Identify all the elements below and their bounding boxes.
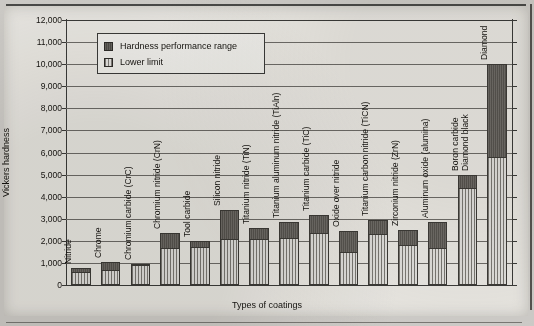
- page-top-rule: [6, 4, 526, 6]
- legend-swatch-dark-icon: [104, 42, 113, 51]
- bar[interactable]: [368, 220, 388, 285]
- bar-segment-divider: [102, 270, 120, 271]
- bar-segment-divider: [488, 157, 506, 158]
- y-tick-label-10000: 10,000: [36, 60, 62, 69]
- bar-segment-lower-limit: [161, 249, 179, 284]
- category-label: Boron carbide: [451, 117, 460, 171]
- y-tick-mark-right-0: [512, 285, 517, 286]
- bar-segment-hardness-range: [459, 175, 477, 189]
- bar[interactable]: [398, 230, 418, 285]
- bar-slot: Oxide over nitride: [334, 20, 364, 285]
- bar-segment-hardness-range: [161, 233, 179, 249]
- bar[interactable]: [101, 262, 121, 285]
- bar-segment-hardness-range: [369, 220, 387, 236]
- bar-segment-divider: [250, 239, 268, 240]
- category-label: Silicon nitride: [213, 155, 222, 206]
- bar-segment-divider: [280, 238, 298, 239]
- y-tick-mark-right-1000: [512, 263, 517, 264]
- category-label: Titanium nitride (TiN): [242, 144, 251, 224]
- bar-segment-hardness-range: [340, 231, 358, 253]
- y-tick-label-7000: 7,000: [41, 126, 62, 135]
- bar-segment-divider: [132, 265, 150, 266]
- y-tick-label-9000: 9,000: [41, 82, 62, 91]
- bar-segment-lower-limit: [459, 189, 477, 284]
- bar[interactable]: [160, 233, 180, 285]
- category-label: Titanium carbon nitride (TiCN): [361, 101, 370, 215]
- y-tick-mark-right-11000: [512, 42, 517, 43]
- bar-slot: Titanium carbide (TiC): [304, 20, 334, 285]
- bar-segment-lower-limit: [132, 266, 150, 284]
- page-right-rule: [530, 4, 532, 310]
- bar-segment-lower-limit: [221, 240, 239, 284]
- bar-slot: Titanium aluminum nitride (TiAln): [274, 20, 304, 285]
- bar[interactable]: [220, 210, 240, 285]
- bar-segment-lower-limit: [72, 273, 90, 284]
- category-label: Aluminum oxide (alumina): [421, 119, 430, 218]
- bar[interactable]: [339, 231, 359, 285]
- category-label: Titanium carbide (TiC): [302, 127, 311, 211]
- bar[interactable]: [428, 222, 448, 285]
- bar-segment-lower-limit: [102, 271, 120, 284]
- y-tick-mark-right-4000: [512, 197, 517, 198]
- y-tick-label-1000: 1,000: [41, 259, 62, 268]
- bar-segment-hardness-range: [221, 210, 239, 240]
- category-label: Chrome: [94, 227, 103, 258]
- y-tick-mark-right-12000: [512, 20, 517, 21]
- category-label: Oxide over nitride: [332, 160, 341, 227]
- bar-segment-divider: [72, 272, 90, 273]
- legend-item-hardness-range: Hardness performance range: [104, 38, 258, 54]
- bar[interactable]: [487, 64, 507, 285]
- bar-segment-divider: [310, 233, 328, 234]
- y-tick-label-6000: 6,000: [41, 149, 62, 158]
- bar-segment-lower-limit: [250, 240, 268, 284]
- x-axis-line: [66, 285, 513, 286]
- bar-segment-divider: [161, 248, 179, 249]
- bar-segment-lower-limit: [369, 235, 387, 284]
- y-tick-mark-0: [62, 285, 66, 286]
- x-axis-title: Types of coatings: [0, 300, 534, 310]
- category-label: Titanium aluminum nitride (TiAln): [272, 93, 281, 218]
- category-label: Diamond black: [461, 114, 470, 171]
- bar-segment-divider: [429, 248, 447, 249]
- bar-segment-divider: [191, 247, 209, 248]
- bar[interactable]: [458, 175, 478, 285]
- category-label: Tool carbide: [183, 191, 192, 237]
- bar-segment-divider: [221, 239, 239, 240]
- bar-segment-divider: [369, 234, 387, 235]
- bar-segment-hardness-range: [280, 222, 298, 239]
- y-tick-mark-right-10000: [512, 64, 517, 65]
- category-label: Nitride: [64, 240, 73, 265]
- bar-segment-lower-limit: [399, 246, 417, 284]
- y-tick-mark-right-2000: [512, 241, 517, 242]
- bar-segment-hardness-range: [399, 230, 417, 247]
- bar[interactable]: [249, 228, 269, 285]
- y-tick-mark-right-3000: [512, 219, 517, 220]
- y-tick-label-12000: 12,000: [36, 16, 62, 25]
- bar-segment-lower-limit: [191, 248, 209, 284]
- y-tick-mark-right-6000: [512, 153, 517, 154]
- bar[interactable]: [309, 215, 329, 285]
- bar-slot: Zirconium nitride (ZrN): [393, 20, 423, 285]
- legend-label-lower-limit: Lower limit: [120, 57, 163, 67]
- bar-segment-divider: [459, 188, 477, 189]
- y-tick-label-8000: 8,000: [41, 104, 62, 113]
- legend-swatch-light-icon: [104, 58, 113, 67]
- category-label: Zirconium nitride (ZrN): [391, 140, 400, 226]
- bar-segment-hardness-range: [429, 222, 447, 249]
- chart-page: 01,0002,0003,0004,0005,0006,0007,0008,00…: [0, 0, 534, 326]
- category-label: Diamond: [480, 26, 489, 60]
- bar-segment-lower-limit: [310, 234, 328, 284]
- chart-legend: Hardness performance range Lower limit: [97, 33, 265, 74]
- y-tick-label-11000: 11,000: [37, 38, 62, 47]
- bar-segment-hardness-range: [310, 215, 328, 234]
- page-bottom-rule: [6, 322, 522, 323]
- bar[interactable]: [279, 222, 299, 285]
- bar[interactable]: [131, 264, 151, 285]
- legend-label-hardness-range: Hardness performance range: [120, 41, 237, 51]
- bar[interactable]: [71, 268, 91, 285]
- bar-slot: Boron carbideDiamond black: [453, 20, 483, 285]
- bar-segment-lower-limit: [340, 253, 358, 284]
- legend-item-lower-limit: Lower limit: [104, 54, 258, 70]
- bar[interactable]: [190, 241, 210, 285]
- category-label: Chromium carbide (CrC): [124, 166, 133, 260]
